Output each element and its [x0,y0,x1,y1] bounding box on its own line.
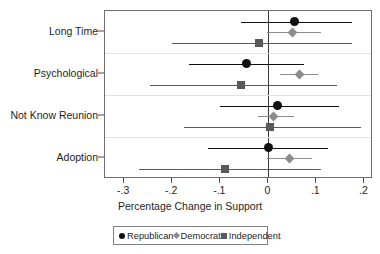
x-axis-tick-label: -.1 [213,184,225,196]
y-axis-tick [98,31,104,32]
y-axis-tick [98,157,104,158]
point-marker [264,143,273,152]
x-axis-tick-label: 0 [264,184,270,196]
y-axis-tick-label: Psychological [34,67,98,79]
point-marker [294,69,304,79]
x-axis-tick [267,178,268,183]
y-axis-tick [98,115,104,116]
circle-marker-icon [119,233,125,239]
x-axis-tick-label: .2 [359,184,368,196]
x-axis-tick [315,178,316,183]
legend-item-independent: Independent [221,231,281,241]
legend-label: Democrat [181,231,221,241]
point-marker [290,17,299,26]
legend-item-republican: Republican [119,231,174,241]
point-marker [242,59,251,68]
legend-label: Republican [127,231,174,241]
y-axis-tick [98,73,104,74]
point-marker [284,153,294,163]
group-separator [105,95,371,96]
x-axis-tick [219,178,220,183]
point-marker [255,39,263,47]
point-marker [237,81,245,89]
confidence-interval-bar [139,169,322,170]
x-axis-tick-label: -.2 [165,184,177,196]
plot-area [104,10,372,178]
x-axis-tick-label: -.3 [117,184,129,196]
point-marker [268,111,278,121]
y-axis-tick-label: Long Time [49,25,98,37]
legend-item-democrat: Democrat [174,231,221,241]
x-axis-tick-label: .1 [311,184,320,196]
y-axis-tick-label: Adoption [57,151,98,163]
x-axis-tick [123,178,124,183]
legend: Republican Democrat Independent [113,226,268,245]
x-axis-tick [363,178,364,183]
point-marker [287,27,297,37]
point-marker [273,101,282,110]
group-separator [105,53,371,54]
point-marker [266,123,274,131]
x-axis-tick [171,178,172,183]
coefficient-plot: Long TimePsychologicalNot Know ReunionAd… [0,0,380,254]
diamond-marker-icon [172,232,179,239]
legend-label: Independent [229,231,281,241]
point-marker [221,165,229,173]
y-axis-tick-label: Not Know Reunion [10,109,98,121]
x-axis-title: Percentage Change in Support [0,200,380,212]
square-marker-icon [221,233,227,239]
zero-reference-line [268,11,269,177]
group-separator [105,137,371,138]
